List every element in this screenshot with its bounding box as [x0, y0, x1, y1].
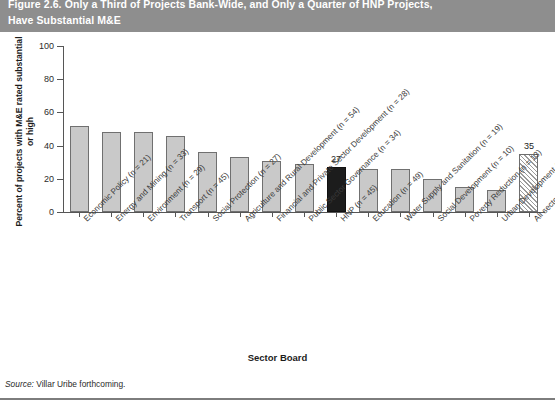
bottom-rule	[0, 398, 555, 400]
x-tick-mark	[111, 212, 112, 217]
x-tick-mark	[529, 212, 530, 217]
y-axis-line	[63, 46, 64, 213]
x-tick-mark	[240, 212, 241, 217]
bar-1	[70, 126, 89, 212]
chart-plot-area: 100806040200 2735 Economic Policy (n = 2…	[0, 0, 555, 403]
y-tick-mark	[57, 212, 63, 213]
y-tick-mark	[57, 179, 63, 180]
x-tick-mark	[272, 212, 273, 217]
y-tick-mark	[57, 146, 63, 147]
y-tick-mark	[57, 112, 63, 113]
y-tick-mark	[57, 46, 63, 47]
x-tick-mark	[465, 212, 466, 217]
x-tick-mark	[208, 212, 209, 217]
source-text: Villar Uribe forthcoming.	[36, 379, 125, 389]
x-tick-mark	[175, 212, 176, 217]
source-note: Source: Villar Uribe forthcoming.	[5, 379, 125, 389]
x-tick-mark	[336, 212, 337, 217]
x-tick-mark	[143, 212, 144, 217]
x-tick-mark	[304, 212, 305, 217]
x-tick-mark	[433, 212, 434, 217]
y-axis-title: Percent of projects with M&E rated subst…	[14, 32, 35, 232]
x-axis-title: Sector Board	[0, 352, 555, 363]
x-tick-mark	[79, 212, 80, 217]
source-label: Source:	[5, 379, 34, 389]
figure-page: Figure 2.6. Only a Third of Projects Ban…	[0, 0, 555, 403]
y-tick-mark	[57, 79, 63, 80]
x-tick-mark	[368, 212, 369, 217]
x-tick-mark	[497, 212, 498, 217]
x-tick-mark	[400, 212, 401, 217]
